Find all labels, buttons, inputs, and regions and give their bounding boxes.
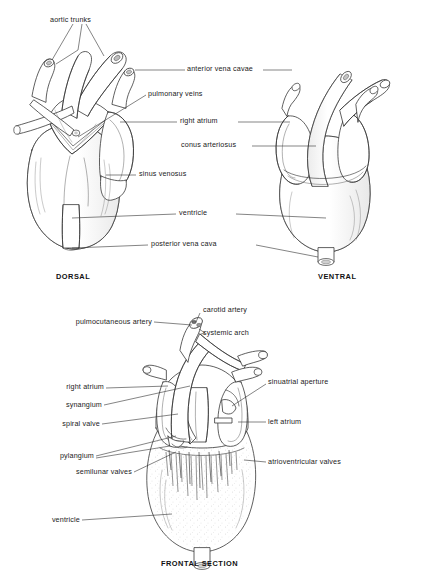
label-conus-arteriosus: conus arteriosus	[181, 141, 236, 149]
label-pylangium: pylangium	[60, 452, 94, 460]
anatomy-figure: aortic trunks anterior vena cavae pulmon…	[0, 0, 422, 578]
caption-frontal-section: FRONTAL SECTION	[161, 559, 238, 568]
label-ventricle-top: ventricle	[179, 209, 207, 217]
caption-ventral: VENTRAL	[318, 272, 356, 281]
label-semilunar-valves: semilunar valves	[76, 468, 132, 476]
label-sinus-venosus: sinus venosus	[139, 170, 187, 178]
label-spiral-valve: spiral valve	[62, 420, 100, 428]
label-pulmonary-veins: pulmonary veins	[148, 90, 203, 98]
label-pulmocutaneous-artery: pulmocutaneous artery	[76, 318, 152, 326]
label-posterior-vena-cava: posterior vena cava	[151, 240, 217, 248]
label-synangium: synangium	[66, 401, 102, 409]
label-aortic-trunks: aortic trunks	[50, 16, 91, 24]
ventral-heart-drawing	[276, 69, 391, 265]
heart-illustrations	[0, 0, 422, 578]
label-right-atrium-dorsal: right atrium	[180, 117, 218, 125]
label-anterior-vena-cavae: anterior vena cavae	[187, 65, 253, 73]
label-right-atrium-frontal: right atrium	[66, 383, 104, 391]
label-sinuatrial-aperture: sinuatrial aperture	[268, 378, 328, 386]
label-atrioventricular-valves: atrioventricular valves	[268, 458, 341, 466]
caption-dorsal: DORSAL	[56, 272, 90, 281]
dorsal-heart-drawing	[14, 50, 135, 250]
label-carotid-artery: carotid artery	[203, 306, 247, 314]
label-ventricle-frontal: ventricle	[52, 516, 80, 524]
label-left-atrium: left atrium	[268, 418, 301, 426]
frontal-section-drawing	[143, 315, 267, 569]
label-systemic-arch: systemic arch	[203, 329, 249, 337]
